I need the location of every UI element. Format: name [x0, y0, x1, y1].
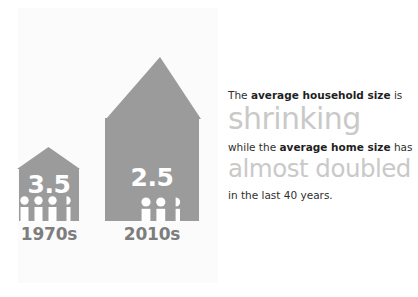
- message-text-block: The average household size is shrinking …: [228, 88, 414, 202]
- message-display-shrinking: shrinking: [228, 103, 414, 135]
- message-line-3-suffix: has: [391, 141, 413, 153]
- person-body-1970s-3: [49, 207, 57, 221]
- message-line-3-prefix: while the: [228, 141, 279, 153]
- houses-vector-group: [0, 0, 220, 297]
- message-line-1: The average household size is: [228, 88, 414, 102]
- message-line-3-emphasis: average home size: [279, 141, 390, 153]
- infographic-canvas: 3.5 2.5 1970s 2010s The average househol…: [0, 0, 418, 297]
- message-line-5: in the last 40 years.: [228, 188, 414, 202]
- house-roof-1970s: [17, 147, 80, 169]
- person-body-1970s-2: [35, 207, 43, 221]
- person-body-2010s-3-half: [176, 209, 180, 222]
- person-head-2010s-2: [156, 197, 165, 206]
- person-head-2010s-1: [141, 197, 150, 206]
- house-value-1970s: 3.5: [19, 172, 79, 197]
- house-comparison-illustration: 3.5 2.5 1970s 2010s: [0, 0, 220, 297]
- era-label-2010s: 2010s: [107, 226, 197, 243]
- house-shape-2010s: [105, 57, 201, 221]
- house-roof-2010s: [106, 57, 201, 119]
- message-line-1-prefix: The: [228, 89, 251, 101]
- house-value-2010s: 2.5: [105, 165, 199, 190]
- message-display-almost-doubled: almost doubled: [228, 155, 414, 182]
- person-body-2010s-2: [156, 209, 165, 222]
- era-label-1970s: 1970s: [9, 226, 89, 243]
- person-body-2010s-1: [142, 209, 151, 222]
- message-line-1-emphasis: average household size: [251, 89, 391, 101]
- message-line-1-suffix: is: [391, 89, 403, 101]
- person-body-1970s-1: [21, 207, 29, 221]
- person-body-1970s-4-half: [67, 207, 71, 221]
- message-line-3: while the average home size has: [228, 140, 414, 154]
